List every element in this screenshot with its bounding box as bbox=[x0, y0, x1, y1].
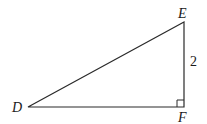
right-angle-marker bbox=[177, 100, 184, 107]
vertex-label-e: E bbox=[177, 6, 187, 21]
triangle-diagram: E D F 2 bbox=[0, 0, 207, 124]
vertex-label-f: F bbox=[177, 110, 187, 124]
side-label-ef: 2 bbox=[190, 54, 197, 69]
triangle-def bbox=[28, 22, 184, 107]
vertex-label-d: D bbox=[11, 100, 22, 115]
